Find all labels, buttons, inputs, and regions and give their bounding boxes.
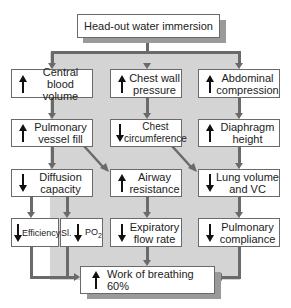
node-label: vessel fill <box>38 133 83 145</box>
arrow-up-icon <box>116 174 128 192</box>
arrow-up-icon <box>204 124 216 142</box>
arrow-up-icon <box>204 75 216 93</box>
node-work-of-breathing: Work of breathing 60% <box>80 266 215 294</box>
node-label: resistance <box>129 183 179 195</box>
node-label: Expiratory <box>130 221 180 233</box>
node-pulmonary-compliance: Pulmonarycompliance <box>198 218 280 247</box>
node-label: flow rate <box>134 233 176 245</box>
arrow-down-icon <box>204 224 216 242</box>
title-text: Head-out water immersion <box>78 20 219 32</box>
node-label: Central <box>43 66 78 78</box>
node-abdominal-compression: Abdominalcompression <box>198 69 280 98</box>
node-pulmonary-vessel-fill: Pulmonaryvessel fill <box>11 119 93 147</box>
connector <box>222 276 241 279</box>
connector <box>30 246 33 278</box>
node-label: Chest wall <box>129 72 180 84</box>
arrow-up-icon <box>17 75 29 93</box>
node-sl-po2: Sl. PO2 <box>60 218 103 247</box>
node-label: circumference <box>124 133 187 144</box>
connector <box>146 246 149 261</box>
arrow-down-icon <box>14 224 22 242</box>
node-chest-wall-pressure: Chest wallpressure <box>110 69 182 98</box>
node-label: Airway <box>138 171 171 183</box>
node-label: Abdominal <box>222 72 274 84</box>
node-label: compression <box>216 84 278 96</box>
node-chest-circumference: Chestcircumference <box>110 119 182 147</box>
node-subscript: 2 <box>98 231 102 238</box>
node-diffusion-capacity: Diffusioncapacity <box>11 169 93 197</box>
node-lung-volume-vc: Lung volumeand VC <box>198 169 280 197</box>
node-label: compliance <box>220 233 276 245</box>
node-label: Pulmonary <box>221 221 274 233</box>
node-label: capacity <box>40 183 80 195</box>
arrow-down-icon <box>74 224 84 242</box>
node-label: Lung volume <box>216 171 279 183</box>
node-central-blood-volume: Centralblood volume <box>11 69 93 98</box>
node-efficiency: Efficiency <box>11 218 59 247</box>
node-diaphragm-height: Diaphragmheight <box>198 119 280 147</box>
connector <box>66 246 69 278</box>
node-label: pressure <box>133 84 176 96</box>
arrow-down-icon <box>17 174 29 192</box>
connector <box>30 196 33 213</box>
node-label: blood volume <box>43 78 78 102</box>
node-label: height <box>233 133 263 145</box>
connector <box>66 196 69 213</box>
node-airway-resistance: Airwayresistance <box>110 169 182 197</box>
node-label: and VC <box>229 183 266 195</box>
arrow-up-icon <box>17 124 29 142</box>
connector <box>30 276 75 279</box>
node-label: PO <box>85 227 98 237</box>
node-label: Pulmonary <box>34 121 87 133</box>
arrow-down-icon <box>204 174 216 192</box>
title-box: Head-out water immersion <box>77 14 220 38</box>
node-expiratory-flow-rate: Expiratoryflow rate <box>110 218 182 247</box>
arrow-down-icon <box>116 224 128 242</box>
result-label: Work of breathing 60% <box>102 268 214 292</box>
arrow-up-icon <box>90 271 102 289</box>
node-label: Diaphragm <box>221 121 275 133</box>
node-label: Diffusion <box>39 171 82 183</box>
node-prefix: Sl. <box>61 228 72 238</box>
connector <box>238 196 241 213</box>
arrow-up-icon <box>116 75 128 93</box>
node-label: Efficiency <box>22 227 60 239</box>
arrow-down-icon <box>116 124 124 142</box>
connector <box>146 196 149 213</box>
connector <box>238 246 241 278</box>
node-label: Chest <box>142 121 168 132</box>
